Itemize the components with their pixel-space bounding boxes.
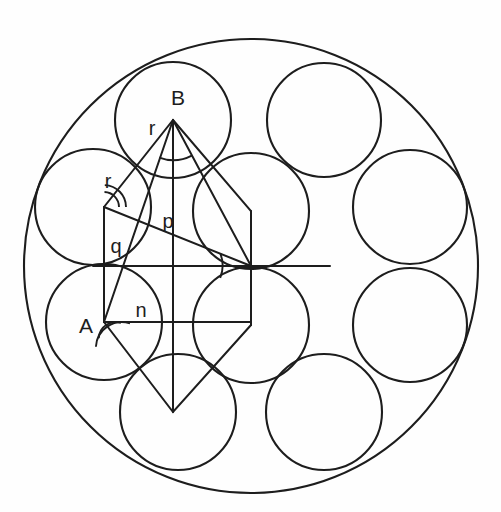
circle-bottom-right [266,354,382,470]
circle-right-lower [353,268,467,382]
point-label-B: B [171,86,185,109]
segment-label-r-left: r [105,170,112,192]
segment-label-r-upper: r [149,117,156,139]
segment-label-q: q [110,235,121,257]
angle-label-n: n [135,299,146,321]
angle-arc-at-B [159,156,192,161]
circle-top-right [267,63,381,177]
circle-bottom-left [120,354,236,470]
point-label-A: A [79,314,93,337]
circle-left [35,149,151,265]
segment-label-p: p [162,210,173,232]
segment-B-to-center [173,120,251,266]
geometry-figure: B A r r p q n [0,0,501,512]
circle-right-upper [353,150,467,264]
diagram-canvas: B A r r p q n [0,0,501,512]
